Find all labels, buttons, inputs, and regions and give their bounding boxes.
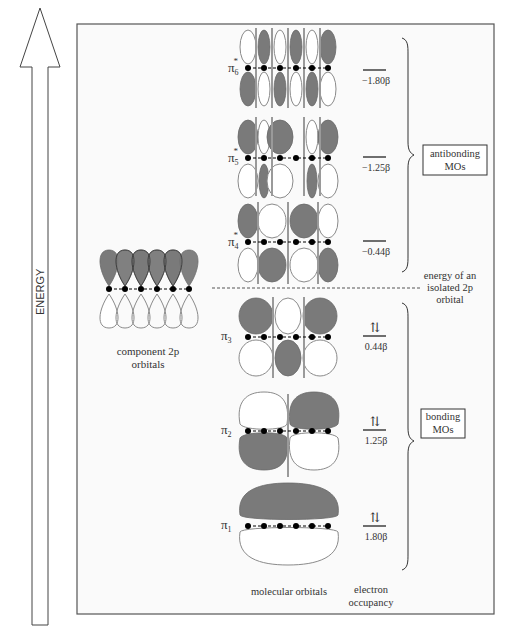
huckel-hexatriene-mo-diagram: .sh { fill:#7a7a7a; stroke:#6a6a6a; stro… [0,0,517,636]
svg-text:bonding: bonding [426,411,461,422]
svg-text:energy of an: energy of an [424,270,477,281]
mo-pi5-star [238,117,338,198]
pi5-energy: −1.25β [362,162,390,173]
svg-text:MOs: MOs [432,424,453,435]
molecular-orbitals-label: molecular orbitals [251,586,327,597]
pi1-electrons: ⇅ [370,510,381,525]
electron-occupancy-label-line1: electron [354,584,389,595]
bonding-label-box: bonding MOs [421,409,465,438]
svg-text:MOs: MOs [444,161,465,172]
pi4-energy: −0.44β [362,246,390,257]
energy-axis-arrow: ENERGY [20,8,60,625]
pi1-energy: 1.80β [365,531,388,542]
pi2-electrons: ⇅ [370,414,381,429]
antibonding-label-box: antibonding MOs [423,145,487,175]
component-label-line1: component 2p [117,345,180,357]
energy-axis-label: ENERGY [34,268,46,315]
pi3-energy: 0.44β [365,341,388,352]
mo-pi2 [239,392,339,477]
component-label-line2: orbitals [132,358,165,370]
svg-text:orbital: orbital [436,294,463,305]
svg-text:antibonding: antibonding [430,148,481,159]
svg-text:isolated 2p: isolated 2p [427,282,473,293]
pi2-energy: 1.25β [365,435,388,446]
electron-occupancy-label-line2: occupancy [349,597,395,608]
pi3-electrons: ⇅ [370,320,381,335]
pi6-energy: −1.80β [362,75,390,86]
